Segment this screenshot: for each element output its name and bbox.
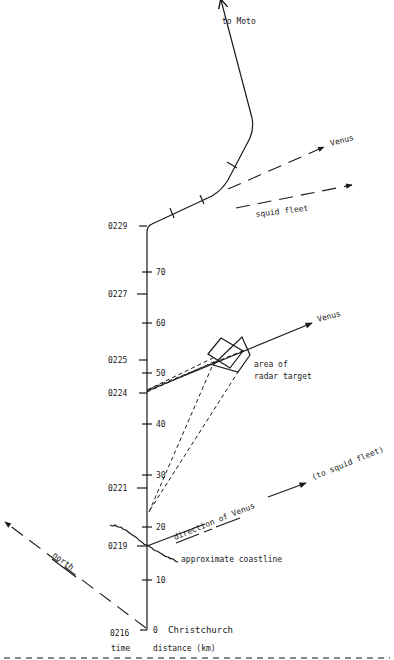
caption-partial (0, 655, 394, 660)
venus-direction-lower: direction of Venus (to squid fleet) (147, 445, 385, 546)
flight-path (147, 0, 253, 630)
axis-label-time: time (111, 644, 130, 653)
axis-label-distance: distance (km) (153, 644, 216, 653)
distance-label-20: 20 (156, 523, 166, 532)
time-label-0216: 0216 (110, 629, 129, 638)
time-axis: 0229 0227 0225 0224 0221 0219 0216 time (108, 222, 147, 653)
distance-label-40: 40 (156, 420, 166, 429)
distance-label-10: 10 (156, 576, 166, 585)
time-label-0219: 0219 (108, 542, 127, 551)
area-of-label: area of (254, 360, 288, 369)
squid-fleet-direction: squid fleet (236, 185, 352, 219)
venus-direction-middle: Venus (147, 309, 342, 391)
distance-label-50: 50 (156, 369, 166, 378)
to-moto-label: to Moto (222, 17, 256, 26)
direction-of-venus-label: direction of Venus (172, 501, 256, 542)
radar-target-area: area of radar target (147, 337, 312, 512)
distance-label-60: 60 (156, 319, 166, 328)
time-label-0227: 0227 (108, 290, 127, 299)
christchurch-label: Christchurch (168, 625, 233, 635)
venus-label-upper: Venus (329, 133, 355, 148)
distance-label-0: 0 (153, 626, 158, 635)
squid-fleet-label: squid fleet (255, 204, 309, 219)
time-label-0221: 0221 (108, 484, 127, 493)
flight-path-diagram: 0229 0227 0225 0224 0221 0219 0216 time … (0, 0, 394, 660)
time-label-0225: 0225 (108, 356, 127, 365)
distance-label-30: 30 (156, 471, 166, 480)
coastline-label: approximate coastline (181, 555, 282, 564)
time-label-0229: 0229 (108, 222, 127, 231)
distance-label-70: 70 (156, 268, 166, 277)
venus-label-middle: Venus (316, 309, 342, 324)
distance-axis: 70 60 50 40 30 20 10 0 Christchurch dist… (140, 268, 233, 653)
to-squid-fleet-label: (to squid fleet) (310, 445, 385, 482)
venus-direction-upper: Venus (228, 133, 355, 189)
radar-target-label: radar target (254, 372, 312, 381)
north-arrow: north (5, 522, 146, 628)
time-label-0224: 0224 (108, 389, 127, 398)
